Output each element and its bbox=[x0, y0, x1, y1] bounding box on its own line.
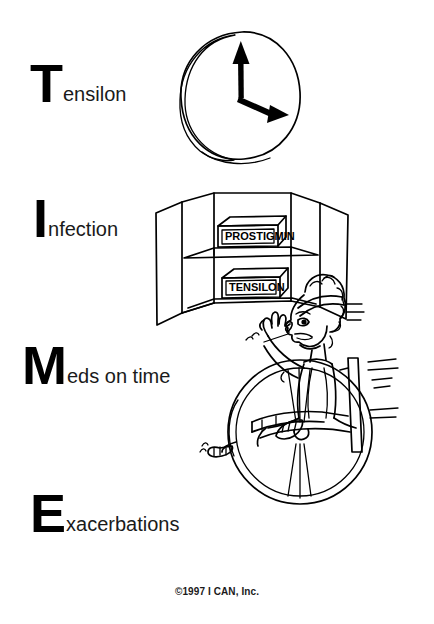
wheelchair-frame bbox=[200, 358, 362, 457]
poster-page: T ensilon I nfection bbox=[0, 0, 434, 624]
mnemonic-line-exacerbations: E xacerbations bbox=[30, 490, 179, 536]
clock-hour-hand bbox=[237, 97, 289, 124]
motion-lines-chair bbox=[368, 359, 398, 418]
mnemonic-line-meds-on-time: M eds on time bbox=[22, 342, 170, 388]
mnemonic-initial-m: M bbox=[22, 342, 66, 388]
medicine-box-prostigmin: PROSTIGMIN bbox=[218, 216, 295, 247]
mnemonic-line-tensilon: T ensilon bbox=[30, 60, 126, 106]
headband bbox=[298, 296, 344, 316]
wheelchair-illustration bbox=[200, 262, 400, 462]
clock-minute-hand bbox=[233, 41, 250, 98]
mnemonic-line-infection: I nfection bbox=[33, 195, 118, 241]
mnemonic-initial-i: I bbox=[33, 195, 47, 241]
mnemonic-remainder-meds-on-time: eds on time bbox=[67, 366, 170, 386]
mnemonic-initial-t: T bbox=[30, 60, 62, 106]
medicine-box-label-prostigmin: PROSTIGMIN bbox=[225, 230, 295, 242]
mnemonic-remainder-infection: nfection bbox=[48, 219, 118, 239]
mnemonic-remainder-tensilon: ensilon bbox=[63, 84, 126, 104]
clock-illustration bbox=[172, 26, 312, 176]
mnemonic-initial-e: E bbox=[30, 490, 65, 536]
mnemonic-remainder-exacerbations: xacerbations bbox=[66, 514, 179, 534]
waving-arm bbox=[246, 312, 304, 382]
copyright-notice: ©1997 I CAN, Inc. bbox=[0, 586, 434, 597]
